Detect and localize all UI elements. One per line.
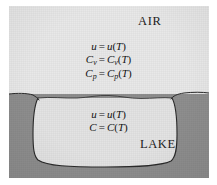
air-equation-line-2: Cv=Cv(T) [0,53,217,66]
figure-root: AIR LAKE u=u(T) Cv=Cv(T) Cp=Cp(T) u=u(T)… [0,0,217,185]
air-eq2-operator: = [97,53,107,65]
lake-equation-block: u=u(T) C=C(T) [0,108,217,135]
air-eq1-close-paren: ) [122,40,126,52]
air-equation-line-3: Cp=Cp(T) [0,67,217,80]
lake-label-text: LAKE [140,137,176,151]
air-label: AIR [138,14,161,29]
lake-equation-line-1: u=u(T) [0,108,217,121]
lake-eq1-close-paren: ) [122,108,126,120]
air-label-text: AIR [138,14,161,28]
air-eq3-operator: = [97,67,107,79]
lake-eq2-lhs: C [89,121,96,133]
lake-cross-section-diagram [9,6,209,178]
air-eq1-lhs: u [91,40,97,52]
lake-eq2-close-paren: ) [124,121,128,133]
figure-plate [9,6,209,178]
air-equation-block: u=u(T) Cv=Cv(T) Cp=Cp(T) [0,40,217,80]
lake-equation-line-2: C=C(T) [0,121,217,134]
air-eq3-close-paren: ) [128,67,132,79]
lake-eq1-operator: = [97,108,107,120]
air-eq1-operator: = [97,40,107,52]
air-equation-line-1: u=u(T) [0,40,217,53]
air-eq2-close-paren: ) [128,53,132,65]
lake-eq2-operator: = [97,121,107,133]
air-eq3-lhs: C [85,67,92,79]
lake-label: LAKE [140,137,176,152]
lake-eq1-lhs: u [91,108,97,120]
